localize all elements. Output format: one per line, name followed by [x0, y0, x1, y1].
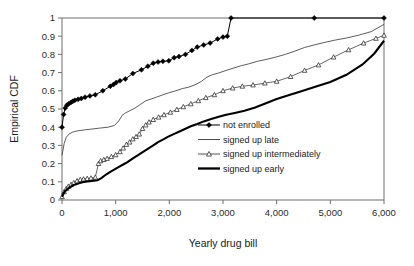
- empirical-cdf-chart: 00.10.20.30.40.50.60.70.80.91 01,0002,00…: [0, 0, 414, 266]
- x-tick-label: 1,000: [104, 207, 128, 218]
- x-tick-label: 0: [59, 207, 64, 218]
- x-tick-label: 5,000: [318, 207, 342, 218]
- y-tick-label: 0.2: [42, 158, 55, 169]
- y-tick-label: 0: [50, 194, 55, 205]
- x-tick-label: 3,000: [211, 207, 235, 218]
- y-tick-label: 0.1: [42, 176, 55, 187]
- y-tick-label: 0.9: [42, 31, 55, 42]
- y-tick-label: 0.8: [42, 49, 55, 60]
- legend-label: signed up intermediately: [223, 149, 321, 159]
- y-tick-label: 1: [50, 12, 55, 23]
- x-tick-label: 4,000: [265, 207, 289, 218]
- y-tick-label: 0.4: [42, 122, 55, 133]
- y-tick-label: 0.6: [42, 85, 55, 96]
- y-tick-label: 0.3: [42, 140, 55, 151]
- x-tick-label: 6,000: [372, 207, 396, 218]
- legend-label: signed up late: [223, 135, 279, 145]
- chart-figure: 00.10.20.30.40.50.60.70.80.91 01,0002,00…: [0, 0, 414, 266]
- y-axis-label: Empirical CDF: [8, 75, 20, 143]
- y-tick-label: 0.7: [42, 67, 55, 78]
- y-tick-label: 0.5: [42, 103, 55, 114]
- legend-label: signed up early: [223, 164, 285, 174]
- legend-label: not enrolled: [223, 120, 270, 130]
- x-tick-label: 2,000: [157, 207, 181, 218]
- x-axis-label: Yearly drug bill: [189, 237, 258, 249]
